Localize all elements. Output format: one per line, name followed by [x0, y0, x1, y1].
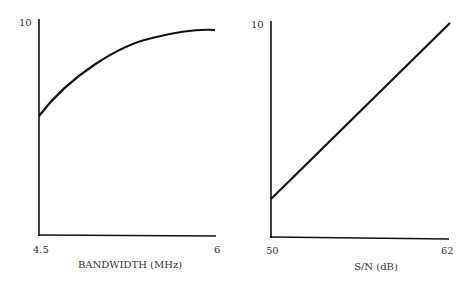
sn-line — [271, 23, 450, 199]
x-axis-label: BANDWIDTH (MHz) — [78, 259, 182, 270]
x-axis — [38, 235, 216, 236]
x-tick-62: 62 — [441, 245, 454, 256]
sn-chart: 10 50 62 S/N (dB) — [251, 19, 454, 272]
x-tick-4-5: 4.5 — [33, 244, 49, 255]
x-tick-50: 50 — [266, 245, 279, 256]
charts-canvas: 10 4.5 6 BANDWIDTH (MHz) 10 50 62 S/N (d… — [0, 0, 471, 282]
y-tick-10: 10 — [251, 19, 264, 30]
x-tick-6: 6 — [214, 244, 220, 255]
bandwidth-curve — [39, 30, 215, 116]
bandwidth-chart: 10 4.5 6 BANDWIDTH (MHz) — [19, 17, 220, 270]
x-axis — [270, 237, 449, 239]
y-tick-10: 10 — [19, 17, 32, 28]
x-axis-label: S/N (dB) — [354, 261, 398, 272]
